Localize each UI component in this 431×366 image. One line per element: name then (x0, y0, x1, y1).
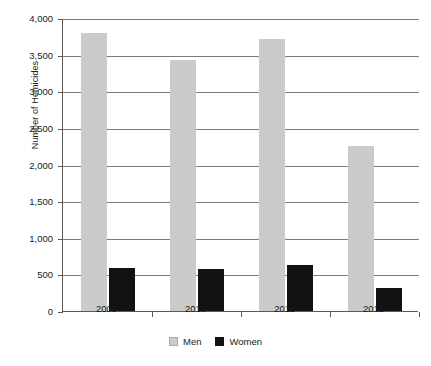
y-axis-tick (58, 129, 63, 130)
x-axis-tick-label-2011: 2011 (245, 304, 325, 314)
bar-chart: Number of Homicides 05001,0001,5002,0002… (0, 0, 431, 366)
x-axis-tick-label-2009: 2009 (67, 304, 147, 314)
y-axis-title: Number of Homicides (30, 5, 40, 205)
y-axis-tick (58, 202, 63, 203)
gridline (63, 19, 419, 20)
bar-men-2012 (348, 146, 374, 311)
x-axis-tick-label-2012: 2012 (334, 304, 414, 314)
bar-men-2010 (170, 60, 196, 311)
x-axis-tick-label-2010: 2010 (156, 304, 236, 314)
plot-area (62, 19, 418, 312)
y-axis-tick-label: 2,000 (7, 161, 53, 171)
chart-legend: MenWomen (0, 336, 431, 347)
gridline (63, 92, 419, 93)
y-axis-tick (58, 92, 63, 93)
y-axis-tick-label: 3,000 (7, 87, 53, 97)
y-axis-tick (58, 166, 63, 167)
x-axis-tick (241, 312, 242, 317)
y-axis-tick-label: 2,500 (7, 124, 53, 134)
legend-item-men[interactable]: Men (169, 336, 201, 347)
legend-swatch-icon (169, 337, 178, 346)
y-axis-tick-label: 500 (7, 270, 53, 280)
y-axis-tick-label: 1,000 (7, 234, 53, 244)
y-axis-tick-label: 3,500 (7, 51, 53, 61)
x-axis-tick (419, 312, 420, 317)
y-axis-tick (58, 56, 63, 57)
bar-men-2009 (81, 33, 107, 311)
y-axis-tick (58, 239, 63, 240)
y-axis-tick-label: 0 (7, 307, 53, 317)
x-axis-tick (330, 312, 331, 317)
y-axis-tick-label: 1,500 (7, 197, 53, 207)
legend-label: Men (183, 336, 201, 347)
y-axis-tick (58, 19, 63, 20)
gridline (63, 56, 419, 57)
x-axis-tick (152, 312, 153, 317)
legend-swatch-icon (215, 337, 224, 346)
bar-men-2011 (259, 39, 285, 311)
y-axis-tick (58, 312, 63, 313)
legend-label: Women (229, 336, 262, 347)
y-axis-tick-label: 4,000 (7, 14, 53, 24)
gridline (63, 129, 419, 130)
legend-item-women[interactable]: Women (215, 336, 262, 347)
y-axis-tick (58, 275, 63, 276)
